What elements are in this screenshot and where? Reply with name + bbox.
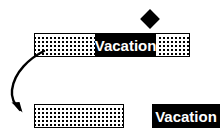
bar-segment-label: Vacation [95,34,157,56]
arrow-head [12,102,23,113]
bar-segment-hatched-right [156,34,189,56]
diamond-marker-icon [140,9,160,29]
hatched-bar [34,104,124,128]
composite-bar: Vacation [34,33,190,57]
vacation-label-box: Vacation [152,104,220,128]
vacation-label-box-label: Vacation [155,109,217,124]
diagram-canvas: Vacation Vacation [0,0,223,136]
arrow-shaft [12,51,44,110]
composite-bar-label: Vacation [95,38,157,53]
